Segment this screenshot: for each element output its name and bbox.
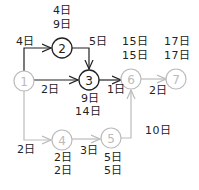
edge-1-3-duration: 2日 — [41, 84, 60, 96]
node-3-earliest: 9日 — [81, 93, 100, 105]
svg-text:2: 2 — [58, 42, 66, 56]
edge-4-5-duration: 3日 — [80, 145, 99, 157]
node-1: 1 — [14, 71, 34, 91]
svg-text:7: 7 — [172, 73, 180, 87]
edge-2-3 — [72, 48, 89, 69]
node-3-latest: 14日 — [75, 106, 102, 118]
edge-5-6-duration: 10日 — [145, 125, 172, 137]
node-6-latest: 15日 — [122, 50, 149, 62]
edge-5-6 — [121, 90, 131, 138]
node-6-earliest: 15日 — [122, 36, 149, 48]
edge-1-2 — [24, 48, 51, 71]
node-5: 5 — [101, 128, 121, 148]
edge-1-4 — [24, 91, 51, 140]
node-5-latest: 5日 — [104, 165, 123, 177]
edge-1-2-duration: 4日 — [16, 36, 35, 48]
node-4: 4 — [52, 130, 72, 150]
svg-text:3: 3 — [85, 74, 93, 88]
svg-text:1: 1 — [20, 75, 28, 89]
edge-1-4-duration: 2日 — [17, 144, 36, 156]
svg-text:4: 4 — [58, 134, 66, 148]
node-3: 3 — [79, 70, 99, 90]
edge-2-3-duration: 5日 — [89, 36, 108, 48]
edge-6-7-duration: 2日 — [149, 85, 168, 97]
node-2: 2 — [52, 38, 72, 58]
edge-3-6-duration: 1日 — [107, 84, 126, 96]
node-5-earliest: 5日 — [104, 152, 123, 164]
svg-text:5: 5 — [107, 132, 115, 146]
node-7-latest: 17日 — [164, 50, 191, 62]
node-4-earliest: 2日 — [54, 152, 73, 164]
node-7: 7 — [166, 69, 186, 89]
node-2-earliest: 4日 — [53, 5, 72, 17]
svg-text:6: 6 — [127, 73, 135, 87]
node-7-earliest: 17日 — [164, 36, 191, 48]
node-2-latest: 9日 — [53, 19, 72, 31]
node-4-latest: 2日 — [54, 165, 73, 177]
